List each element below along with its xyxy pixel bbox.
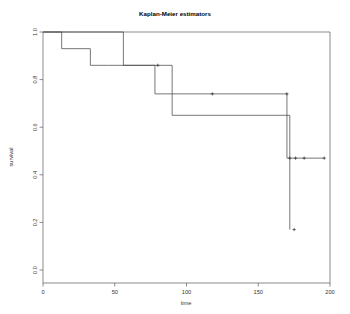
x-tick-label: 50: [112, 289, 118, 295]
x-tick-label: 0: [41, 289, 44, 295]
y-tick-label: 1.0: [32, 28, 38, 36]
y-tick-label: 0.8: [32, 76, 38, 84]
x-axis-label: time: [181, 300, 192, 306]
y-tick-label: 0.4: [32, 171, 38, 179]
y-tick-label: 0.2: [32, 219, 38, 227]
y-tick-label: 0.0: [32, 266, 38, 274]
x-tick-label: 100: [182, 289, 191, 295]
x-tick-label: 150: [254, 289, 263, 295]
y-axis-label: survival: [8, 148, 14, 167]
y-tick-label: 0.6: [32, 123, 38, 131]
x-tick-label: 200: [325, 289, 334, 295]
kaplan-meier-chart: Kaplan-Meier estimators 0.00.20.40.60.81…: [0, 0, 350, 314]
plot-background: [0, 0, 350, 314]
chart-title: Kaplan-Meier estimators: [139, 10, 211, 17]
